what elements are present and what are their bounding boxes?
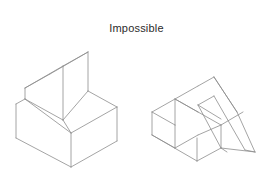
left-edge-fin-inner-top [50, 52, 88, 74]
left-face-fin-outer [25, 66, 63, 131]
right-edge-wedge-right-slope [237, 112, 255, 152]
figure-root: Impossible [0, 0, 273, 181]
right-edge-outer-bottom-right [197, 148, 221, 161]
right-edge-roof-ridge-top [198, 77, 214, 86]
left-edge-right-top-back [88, 91, 117, 107]
left-edge-base-top-left [16, 99, 25, 104]
left-edge-ramp-slope-front [63, 91, 88, 120]
right-object-recessed-block-with-wedge [152, 77, 255, 161]
left-face-right-side [71, 107, 117, 167]
isometric-drawing-canvas [0, 0, 273, 181]
left-object-slotted-block-with-ramp [16, 52, 117, 167]
